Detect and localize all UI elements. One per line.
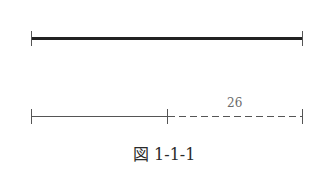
dashed-length-label: 26 bbox=[227, 97, 242, 109]
diagram-canvas bbox=[0, 0, 333, 196]
figure-caption: 図 1-1-1 bbox=[133, 147, 195, 163]
full-segment bbox=[31, 31, 303, 46]
split-segment bbox=[31, 109, 303, 124]
